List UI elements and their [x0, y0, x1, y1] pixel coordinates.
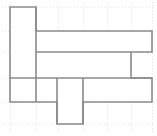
polyomino-net-figure	[0, 0, 157, 136]
net-outline	[10, 7, 152, 124]
figure-canvas	[0, 0, 157, 136]
